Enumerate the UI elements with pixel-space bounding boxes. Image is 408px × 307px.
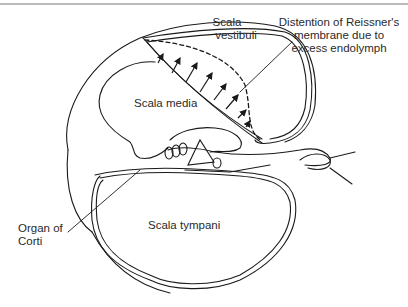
label-scala-tympani: Scala tympani: [148, 219, 220, 232]
label-organ-of-corti: Organ of Corti: [18, 222, 63, 248]
label-scala-media: Scala media: [134, 97, 197, 110]
label-scala-vestibuli: Scala vestibuli: [200, 16, 260, 42]
label-distention: Distention of Reissner's membrane due to…: [272, 16, 406, 55]
cochlea-diagram: Scala vestibuli Scala media Scala tympan…: [0, 0, 408, 307]
